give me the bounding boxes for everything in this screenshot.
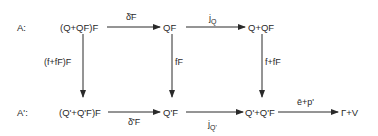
label-jq-prime: jQ' xyxy=(208,119,217,133)
row-label-a-prime: A': xyxy=(17,107,28,118)
row-label-a: A: xyxy=(17,22,26,33)
label-delta-f: δ̄F xyxy=(126,12,137,22)
label-ffF-F: (f+fF)F xyxy=(44,57,71,67)
node-q-prime-f: Q'F xyxy=(163,107,178,118)
node-gamma-plus-v: Γ+V xyxy=(341,107,358,118)
node-q-prime-plus-q-prime-f: Q'+Q'F xyxy=(245,107,275,118)
node-q-prime-plus-q-prime-f-f: (Q'+Q'F)F xyxy=(59,107,101,118)
node-q-plus-qf-f: (Q+QF)F xyxy=(60,22,98,33)
diagram-arrows xyxy=(0,0,378,136)
label-jq: jQ xyxy=(209,13,216,27)
node-qf: QF xyxy=(163,22,176,33)
label-e-p: ē+p' xyxy=(297,97,314,107)
label-f-plus-fF: f+fF xyxy=(265,57,281,67)
node-q-plus-qf: Q+QF xyxy=(248,22,274,33)
label-jq-prime-sub: Q' xyxy=(210,124,217,131)
label-jq-sub: Q xyxy=(211,18,216,25)
label-delta-prime-f: δ̄'F xyxy=(128,117,140,127)
label-fF: fF xyxy=(175,57,183,67)
